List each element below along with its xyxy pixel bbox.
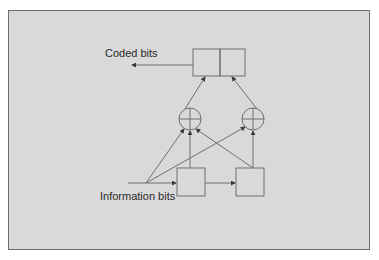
xor-left-to-output (185, 77, 205, 109)
xor-left-icon (179, 108, 201, 130)
register-2-to-xor-left (196, 129, 253, 168)
coded-bits-label: Coded bits (105, 48, 158, 59)
output-register-right-cell (220, 49, 245, 76)
input-to-xor-right (146, 127, 245, 183)
information-bits-label: Information bits (100, 191, 175, 202)
input-to-xor-left (146, 129, 184, 183)
output-register-left-cell (193, 49, 220, 76)
shift-register-1 (177, 168, 205, 196)
shift-register-2 (236, 168, 264, 196)
xor-right-to-output (232, 77, 257, 109)
encoder-diagram (0, 0, 379, 260)
xor-right-icon (242, 108, 264, 130)
